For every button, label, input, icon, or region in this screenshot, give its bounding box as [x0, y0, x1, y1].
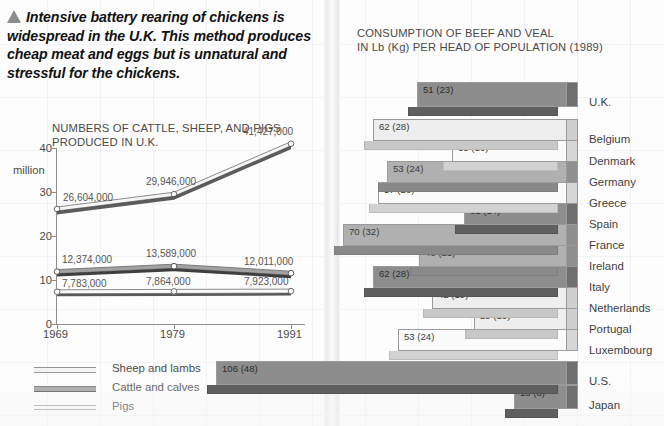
legend-label: Sheep and lambs: [112, 362, 201, 374]
point-label: 13,589,000: [146, 248, 196, 259]
bar-bottom-face: [423, 309, 558, 318]
bar-category-label-greece: Greece: [589, 197, 626, 209]
bar-bottom-face: [364, 141, 558, 150]
bar-category-label-uk: U.K.: [589, 96, 611, 108]
bar-side-face: [567, 287, 578, 309]
bar-value-label: 62 (28): [379, 121, 409, 132]
bar-category-label-denmark: Denmark: [589, 155, 635, 167]
bar-chart-title-line2: IN Lb (Kg) PER HEAD OF POPULATION (1989): [357, 41, 603, 53]
bar-bottom-face: [455, 225, 558, 234]
bar-value-label: 62 (28): [379, 268, 409, 279]
line-chart-series-layer: [0, 118, 324, 358]
bar-side-face: [567, 182, 578, 204]
bar-chart-title: CONSUMPTION OF BEEF AND VEAL IN Lb (Kg) …: [357, 27, 657, 55]
bar-bottom-face: [408, 107, 558, 116]
bar-bottom-face: [207, 385, 558, 394]
legend-label: Pigs: [112, 400, 134, 412]
bar-us: 106 (48): [216, 361, 567, 385]
bar-face: [216, 361, 567, 385]
bar-bottom-face: [410, 267, 558, 276]
bar-category-label-portugal: Portugal: [589, 323, 631, 335]
point-label: 7,864,000: [146, 276, 191, 287]
bar-category-label-belgium: Belgium: [589, 133, 630, 145]
bar-bottom-face: [369, 204, 558, 213]
bar-side-face: [567, 245, 578, 267]
triangle-up-icon: [7, 10, 21, 23]
bar-side-face: [567, 140, 578, 162]
bar-side-face: [567, 308, 578, 330]
point-label: 7,783,000: [62, 278, 107, 289]
bar-side-face: [567, 203, 578, 225]
caption-body: Intensive battery rearing of chickens is…: [7, 9, 311, 81]
bar-side-face: [567, 361, 578, 385]
point-label: 29,946,000: [146, 176, 196, 187]
bar-bottom-face: [364, 288, 558, 297]
bar-value-label: 53 (24): [404, 331, 434, 342]
bar-value-label: 70 (32): [349, 226, 379, 237]
line-chart: NUMBERS OF CATTLE, SHEEP, AND PIGS PRODU…: [0, 118, 324, 358]
bar-side-face: [567, 266, 578, 288]
bar-category-label-netherlands: Netherlands: [589, 302, 650, 314]
bar-category-label-italy: Italy: [589, 281, 610, 293]
legend-item-pigs: Pigs: [34, 400, 264, 419]
bar-bottom-face: [465, 330, 558, 339]
bar-side-face: [567, 161, 578, 183]
legend-swatch-icon: [34, 367, 96, 373]
bar-bottom-face: [389, 351, 558, 360]
point-label: 7,923,000: [244, 276, 289, 287]
legend-swatch-icon: [34, 386, 96, 392]
point-label: 26,604,000: [63, 192, 113, 203]
series-pigs: [54, 288, 294, 296]
bar-category-label-germany: Germany: [589, 176, 636, 188]
bar-side-face: [567, 82, 578, 107]
point-label: 12,374,000: [62, 254, 112, 265]
legend-swatch-icon: [34, 405, 96, 410]
bar-side-face: [567, 119, 578, 141]
point-label: 41,427,000: [243, 126, 293, 137]
bar-value-label: 53 (24): [393, 163, 423, 174]
bar-bottom-face: [443, 162, 558, 171]
bar-category-label-france: France: [589, 239, 624, 251]
bar-category-label-us: U.S.: [589, 375, 611, 387]
bar-bottom-face: [505, 409, 558, 418]
bar-chart-title-line1: CONSUMPTION OF BEEF AND VEAL: [357, 27, 554, 39]
bar-category-label-ireland: Ireland: [589, 260, 624, 272]
bar-side-face: [567, 329, 578, 351]
bar-category-label-japan: Japan: [589, 399, 620, 411]
bar-bottom-face: [378, 183, 558, 192]
bar-uk: 51 (23): [417, 82, 567, 107]
bar-side-face: [567, 385, 578, 409]
caption-text-block: Intensive battery rearing of chickens is…: [7, 8, 332, 82]
bar-category-label-luxembourg: Luxembourg: [589, 344, 652, 356]
bar-value-label: 51 (23): [423, 84, 453, 95]
bar-belgium: 62 (28): [373, 119, 567, 141]
bar-category-label-spain: Spain: [589, 218, 618, 230]
bar-side-face: [567, 224, 578, 246]
bar-value-label: 106 (48): [222, 363, 258, 374]
point-label: 12,011,000: [244, 256, 293, 267]
bar-bottom-face: [334, 246, 558, 255]
legend-label: Cattle and calves: [112, 381, 199, 393]
